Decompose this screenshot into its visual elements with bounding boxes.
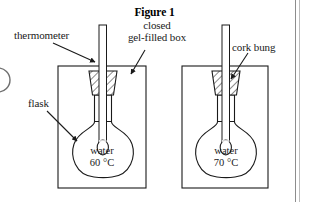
thermometer-left [97,25,108,155]
label-thermometer: thermometer [14,30,69,42]
label-gel-filled-box-line2: gel-filled box [108,32,206,44]
left-flask-contents-label: water [79,145,125,156]
figure-title: Figure 1 [0,6,309,18]
leader-arrow-gel-box [131,50,145,74]
thermometer-right [220,25,231,155]
figure-container: Figure 1 thermometer closed gel-filled b… [0,0,309,202]
label-flask: flask [28,98,49,110]
label-gel-filled-box: closed gel-filled box [108,20,206,44]
leader-arrow-flask [47,111,77,141]
left-flask-temperature: 60 °C [79,157,125,168]
page-border-rule [295,0,296,202]
leader-arrow-thermometer [53,43,95,62]
label-gel-filled-box-line1: closed [143,19,171,31]
right-flask-temperature: 70 °C [203,157,249,168]
page-border-rule-outer [299,0,300,202]
page-margin-circle-fragment [0,68,10,92]
label-cork-bung: cork bung [232,42,275,54]
right-flask-contents-label: water [203,145,249,156]
